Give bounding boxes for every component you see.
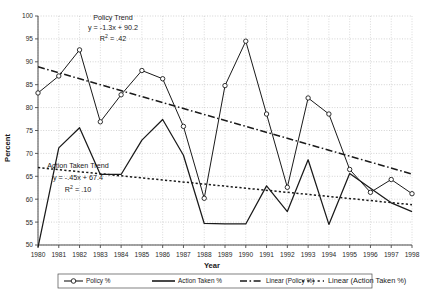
x-tick-label: 1982 bbox=[72, 251, 87, 258]
y-tick-label: 95 bbox=[26, 35, 34, 42]
legend-label: Policy % bbox=[86, 277, 111, 285]
data-point-marker bbox=[57, 74, 61, 78]
annotation-policy-title: Policy Trend bbox=[93, 13, 133, 22]
annotation-action-r2: R2 = .10 bbox=[65, 184, 91, 194]
annotation-action-equation: y = -.45x + 67.4 bbox=[53, 173, 103, 182]
y-tick-label: 70 bbox=[26, 150, 34, 157]
x-tick-label: 1988 bbox=[197, 251, 212, 258]
data-point-marker bbox=[410, 192, 414, 196]
legend-label: Linear (Action Taken %) bbox=[328, 276, 406, 285]
y-axis-title: Percent bbox=[3, 134, 12, 162]
x-tick-label: 1996 bbox=[363, 251, 378, 258]
y-tick-label: 80 bbox=[26, 104, 34, 111]
x-tick-label: 1980 bbox=[31, 251, 46, 258]
data-point-marker bbox=[285, 185, 289, 189]
data-point-marker bbox=[181, 124, 185, 128]
y-tick-label: 90 bbox=[26, 58, 34, 65]
x-tick-label: 1983 bbox=[93, 251, 108, 258]
data-point-marker bbox=[140, 68, 144, 72]
legend-label: Linear (Policy %) bbox=[266, 277, 314, 285]
data-point-marker bbox=[202, 196, 206, 200]
x-tick-label: 1991 bbox=[259, 251, 274, 258]
data-point-marker bbox=[223, 83, 227, 87]
y-tick-label: 60 bbox=[26, 196, 34, 203]
data-point-marker bbox=[98, 120, 102, 124]
data-point-marker bbox=[306, 96, 310, 100]
x-tick-label: 1989 bbox=[218, 251, 233, 258]
y-tick-label: 50 bbox=[26, 241, 34, 248]
data-point-marker bbox=[160, 77, 164, 81]
x-tick-label: 1984 bbox=[114, 251, 129, 258]
x-tick-label: 1986 bbox=[155, 251, 170, 258]
percent-by-year-line-chart: 50556065707580859095100 1980198119821983… bbox=[0, 0, 424, 293]
x-tick-label: 1992 bbox=[280, 251, 295, 258]
data-point-marker bbox=[389, 177, 393, 181]
annotation-action-title: Action Taken Trend bbox=[47, 161, 108, 170]
x-tick-label: 1987 bbox=[176, 251, 191, 258]
data-point-marker bbox=[368, 190, 372, 194]
x-tick-label: 1994 bbox=[322, 251, 337, 258]
data-point-marker bbox=[119, 93, 123, 97]
y-tick-label: 85 bbox=[26, 81, 34, 88]
chart-container: 50556065707580859095100 1980198119821983… bbox=[0, 0, 424, 293]
annotation-policy-r2: R2 = .42 bbox=[100, 33, 126, 43]
data-point-marker bbox=[264, 112, 268, 116]
x-tick-label: 1990 bbox=[238, 251, 253, 258]
data-point-marker bbox=[327, 112, 331, 116]
x-tick-label: 1993 bbox=[301, 251, 316, 258]
y-tick-label: 65 bbox=[26, 173, 34, 180]
y-tick-label: 100 bbox=[22, 12, 33, 19]
x-axis-title: Year bbox=[204, 261, 220, 270]
x-tick-label: 1998 bbox=[405, 251, 420, 258]
y-tick-label: 75 bbox=[26, 127, 34, 134]
chart-background bbox=[0, 0, 424, 293]
legend-label: Action Taken % bbox=[178, 277, 222, 284]
data-point-marker bbox=[36, 91, 40, 95]
y-tick-label: 55 bbox=[26, 219, 34, 226]
data-point-marker bbox=[77, 48, 81, 52]
x-tick-label: 1981 bbox=[51, 251, 66, 258]
annotation-policy-equation: y = -1.3x + 90.2 bbox=[88, 23, 138, 32]
x-tick-label: 1997 bbox=[384, 251, 399, 258]
data-point-marker bbox=[244, 39, 248, 43]
x-tick-label: 1985 bbox=[135, 251, 150, 258]
data-point-marker bbox=[347, 167, 351, 171]
x-tick-label: 1995 bbox=[342, 251, 357, 258]
